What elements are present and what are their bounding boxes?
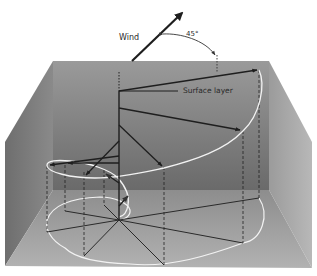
wind-arrow xyxy=(132,13,182,61)
angle-label: 45° xyxy=(186,30,198,38)
wind-label: Wind xyxy=(119,33,139,42)
ekman-spiral-diagram xyxy=(0,0,317,276)
surface-layer-label: Surface layer xyxy=(183,86,233,95)
floor xyxy=(5,190,312,268)
back-wall xyxy=(53,61,269,190)
